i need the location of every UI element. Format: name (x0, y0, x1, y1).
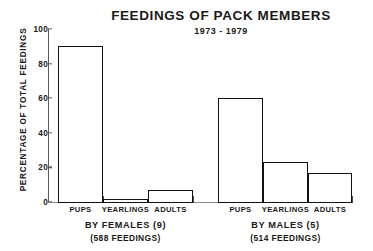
y-tick-mark-80 (48, 63, 52, 64)
x-tick-mark-f-right (193, 196, 194, 203)
group-caption-females-main: BY FEMALES (9) (85, 219, 166, 232)
title-block: FEEDINGS OF PACK MEMBERS 1973 - 1979 (86, 8, 356, 37)
y-axis-line (48, 29, 49, 203)
y-axis-ticks: 100 80 60 40 20 0 (18, 0, 48, 251)
y-tick-mark-60 (48, 98, 52, 99)
y-tick-label-80: 80 (22, 59, 48, 68)
bar-males-adults (308, 173, 352, 204)
x-label-males-yearlings: YEARLINGS (262, 205, 309, 214)
y-tick-label-40: 40 (22, 128, 48, 137)
group-caption-males-main: BY MALES (5) (250, 219, 320, 232)
y-tick-mark-20 (48, 167, 52, 168)
y-tick-mark-40 (48, 132, 52, 133)
group-caption-males: BY MALES (5) (514 FEEDINGS) (250, 219, 320, 244)
group-caption-males-sub: (514 FEEDINGS) (250, 232, 320, 244)
bar-females-adults (148, 190, 193, 204)
group-caption-females-sub: (588 FEEDINGS) (85, 232, 166, 244)
chart-title: FEEDINGS OF PACK MEMBERS (86, 8, 356, 23)
y-tick-label-100: 100 (22, 25, 48, 34)
bar-chart-figure: FEEDINGS OF PACK MEMBERS 1973 - 1979 PER… (0, 0, 373, 251)
bar-males-yearlings (263, 162, 308, 203)
y-tick-label-20: 20 (22, 163, 48, 172)
x-label-males-pups: PUPS (229, 205, 251, 214)
x-label-males-adults: ADULTS (314, 205, 346, 214)
y-tick-label-60: 60 (22, 94, 48, 103)
group-caption-females: BY FEMALES (9) (588 FEEDINGS) (85, 219, 166, 244)
y-tick-label-0: 0 (22, 198, 48, 207)
y-tick-mark-100 (48, 28, 52, 29)
x-tick-mark-m-right (352, 196, 353, 203)
bar-females-yearlings (103, 199, 148, 204)
x-label-females-pups: PUPS (69, 205, 91, 214)
bar-females-pups (58, 46, 103, 203)
x-label-females-yearlings: YEARLINGS (102, 205, 149, 214)
x-label-females-adults: ADULTS (154, 205, 186, 214)
bar-males-pups (218, 98, 263, 203)
chart-subtitle: 1973 - 1979 (86, 25, 356, 37)
